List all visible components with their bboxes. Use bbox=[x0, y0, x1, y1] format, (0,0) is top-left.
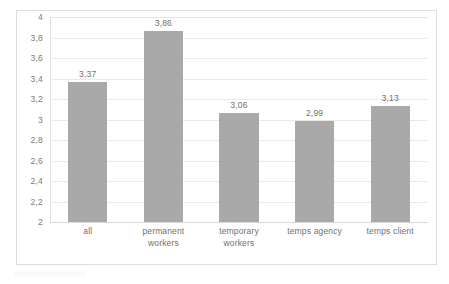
x-axis-tick-label-line: temps client bbox=[352, 226, 428, 238]
x-axis-tick-label-line: permanent bbox=[126, 226, 202, 238]
bar-group: 3,86 bbox=[144, 17, 183, 222]
y-axis-tick-label: 2 bbox=[38, 217, 43, 227]
x-axis-tick-labels: allpermanentworkerstemporaryworkerstemps… bbox=[50, 226, 428, 262]
x-axis-tick-label-line: workers bbox=[126, 238, 202, 250]
y-axis-tick-label: 3,2 bbox=[31, 94, 43, 104]
x-axis-tick-label: all bbox=[50, 226, 126, 238]
y-axis-tick-label: 2,4 bbox=[31, 176, 43, 186]
bar-value-label: 3,86 bbox=[144, 18, 183, 28]
y-axis-tick-label: 4 bbox=[38, 12, 43, 22]
bar bbox=[68, 82, 107, 222]
bar-value-label: 2,99 bbox=[295, 108, 334, 118]
y-axis-tick-label: 3,8 bbox=[31, 33, 43, 43]
bar bbox=[295, 121, 334, 222]
x-axis-tick-label-line: all bbox=[50, 226, 126, 238]
bar bbox=[371, 106, 410, 222]
bar-value-label: 3,06 bbox=[219, 100, 258, 110]
x-axis-tick-label: temporaryworkers bbox=[201, 226, 277, 249]
bar-value-label: 3,13 bbox=[371, 93, 410, 103]
x-axis-tick-label-line: temps agency bbox=[277, 226, 353, 238]
y-axis-tick-label: 3,6 bbox=[31, 53, 43, 63]
y-axis-tick-label: 2,6 bbox=[31, 156, 43, 166]
page-artifact-smudge bbox=[14, 271, 86, 276]
x-axis-tick-label: temps agency bbox=[277, 226, 353, 238]
bar bbox=[144, 31, 183, 222]
y-axis-tick-labels: 22,22,42,62,833,23,43,63,84 bbox=[16, 17, 47, 222]
y-axis-tick-label: 3,4 bbox=[31, 74, 43, 84]
y-axis-tick-label: 2,2 bbox=[31, 197, 43, 207]
bar-group: 3,37 bbox=[68, 17, 107, 222]
bar-group: 3,06 bbox=[219, 17, 258, 222]
gridline bbox=[50, 222, 428, 223]
x-axis-tick-label: permanentworkers bbox=[126, 226, 202, 249]
x-axis-tick-label: temps client bbox=[352, 226, 428, 238]
y-axis-tick-label: 3 bbox=[38, 115, 43, 125]
bar bbox=[219, 113, 258, 222]
bar-group: 3,13 bbox=[371, 17, 410, 222]
x-axis-tick-label-line: temporary bbox=[201, 226, 277, 238]
y-axis-tick-label: 2,8 bbox=[31, 135, 43, 145]
x-axis-tick-label-line: workers bbox=[201, 238, 277, 250]
bars-layer: 3,373,863,062,993,13 bbox=[50, 17, 428, 222]
bar-group: 2,99 bbox=[295, 17, 334, 222]
bar-chart-figure: 22,22,42,62,833,23,43,63,84 3,373,863,06… bbox=[0, 0, 449, 284]
bar-value-label: 3,37 bbox=[68, 69, 107, 79]
